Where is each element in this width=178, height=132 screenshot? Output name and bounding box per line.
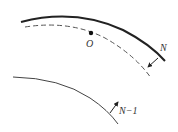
point-o-dot [89, 31, 93, 35]
dashed-midline-curve [25, 25, 151, 78]
lower-curve [13, 77, 118, 124]
arrow-n-minus-1 [110, 102, 118, 113]
arrow-n-label: N [159, 42, 168, 53]
arrow-n [148, 58, 158, 67]
point-o-label: O [86, 38, 93, 49]
arrow-n-minus-1-label: N−1 [118, 105, 137, 116]
curve-diagram: O N N−1 [0, 0, 178, 132]
